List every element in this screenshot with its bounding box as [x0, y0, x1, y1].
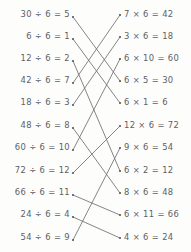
match-line-l9-to-r10[interactable]	[73, 195, 120, 215]
endpoint-dot-l2	[72, 38, 74, 40]
endpoint-dot-l11	[72, 239, 74, 241]
division-item-l10[interactable]: 24 ÷ 6 = 4	[2, 207, 72, 221]
division-item-l5[interactable]: 18 ÷ 6 = 3	[2, 95, 72, 109]
endpoint-dot-l10	[72, 216, 74, 218]
multiplication-item-r8[interactable]: 6 × 2 = 12	[121, 163, 191, 177]
match-line-l10-to-r11[interactable]	[73, 217, 120, 238]
division-item-l2[interactable]: 6 ÷ 6 = 1	[2, 29, 72, 43]
endpoint-dot-l3	[72, 60, 74, 62]
endpoint-dot-l7	[72, 149, 74, 151]
match-line-l6-to-r9[interactable]	[73, 128, 120, 193]
division-item-l6[interactable]: 48 ÷ 6 = 8	[2, 118, 72, 132]
multiplication-item-r2[interactable]: 3 × 6 = 18	[121, 29, 191, 43]
multiplication-item-r3[interactable]: 6 × 10 = 60	[121, 51, 191, 65]
endpoint-dot-l4	[72, 82, 74, 84]
endpoint-dot-l1	[72, 16, 74, 18]
multiplication-item-r9[interactable]: 8 × 6 = 48	[121, 185, 191, 199]
multiplication-item-r7[interactable]: 9 × 6 = 54	[121, 140, 191, 154]
multiplication-item-r1[interactable]: 7 × 6 = 42	[121, 7, 191, 21]
match-line-l3-to-r8[interactable]	[73, 61, 120, 171]
match-line-l11-to-r7[interactable]	[73, 148, 120, 240]
multiplication-item-r6[interactable]: 12 × 6 = 72	[121, 118, 191, 132]
division-item-l1[interactable]: 30 ÷ 6 = 5	[2, 7, 72, 21]
multiplication-item-r10[interactable]: 6 × 11 = 66	[121, 207, 191, 221]
division-item-l4[interactable]: 42 ÷ 6 = 7	[2, 73, 72, 87]
division-item-l7[interactable]: 60 ÷ 6 = 10	[2, 140, 72, 154]
endpoint-dot-l5	[72, 104, 74, 106]
endpoint-dot-l6	[72, 127, 74, 129]
multiplication-item-r11[interactable]: 4 × 6 = 24	[121, 230, 191, 244]
division-item-l9[interactable]: 66 ÷ 6 = 11	[2, 185, 72, 199]
multiplication-item-r5[interactable]: 6 × 1 = 6	[121, 95, 191, 109]
division-item-l8[interactable]: 72 ÷ 6 = 12	[2, 163, 72, 177]
match-line-l8-to-r6[interactable]	[73, 126, 120, 173]
division-item-l11[interactable]: 54 ÷ 6 = 9	[2, 230, 72, 244]
multiplication-item-r4[interactable]: 6 × 5 = 30	[121, 73, 191, 87]
matching-worksheet: 30 ÷ 6 = 56 ÷ 6 = 112 ÷ 6 = 242 ÷ 6 = 71…	[0, 0, 191, 252]
endpoint-dot-l9	[72, 194, 74, 196]
endpoint-dot-l8	[72, 172, 74, 174]
division-item-l3[interactable]: 12 ÷ 6 = 2	[2, 51, 72, 65]
